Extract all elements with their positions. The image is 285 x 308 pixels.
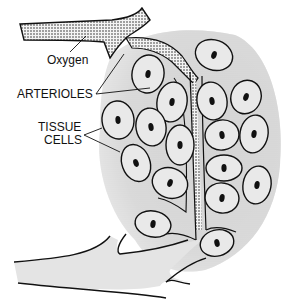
tissue-label-line2: CELLS <box>44 134 82 146</box>
oxygen-label: Oxygen <box>47 54 88 66</box>
tissue-cell <box>166 125 194 165</box>
arteriole-oxygen-diagram: Oxygen ARTERIOLES TISSUE CELLS <box>0 0 285 308</box>
tissue-cell <box>206 155 242 181</box>
cell-nucleus <box>221 164 226 172</box>
tissue-label-line1: TISSUE <box>38 121 81 133</box>
cell-nucleus <box>177 141 182 149</box>
diagram-canvas <box>0 0 285 308</box>
arterioles-label: ARTERIOLES <box>17 88 93 100</box>
tissue-leader-line-1 <box>84 128 102 135</box>
